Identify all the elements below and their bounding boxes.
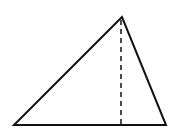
triangle — [14, 17, 166, 125]
triangle-diagram — [0, 0, 176, 131]
